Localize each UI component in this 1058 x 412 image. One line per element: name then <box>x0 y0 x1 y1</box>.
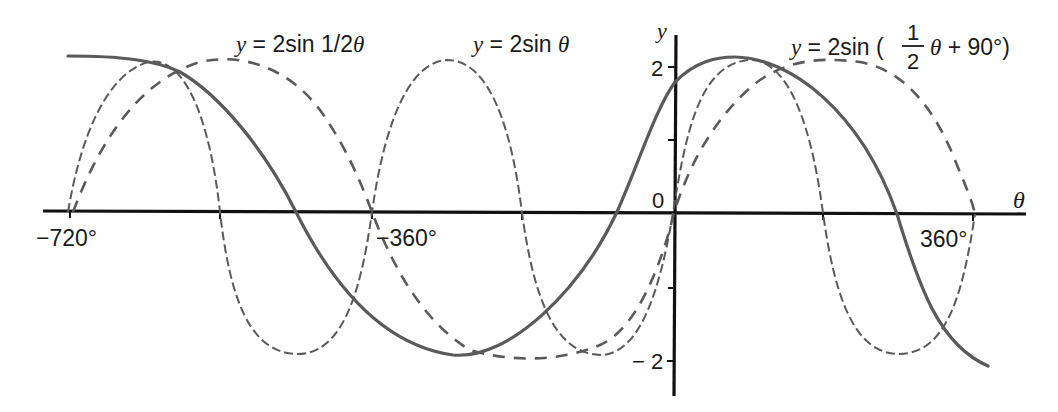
curve-2sin-theta <box>68 60 975 355</box>
label-2sin-half-theta: y = 2sin 1/2θ <box>234 31 364 57</box>
svg-text:θ + 90°): θ + 90°) <box>930 34 1010 60</box>
x-tick-label-360: 360° <box>920 226 968 252</box>
x-axis <box>43 211 1026 214</box>
label-2sin-half-theta-plus-90: y = 2sin ( 1 2 θ + 90°) <box>789 20 1010 74</box>
label-2sin-theta: y = 2sin θ <box>471 31 569 57</box>
labels: y = 2sin 1/2θ y = 2sin θ y = 2sin ( 1 2 … <box>36 18 1025 374</box>
x-tick-label-neg360: −360° <box>376 225 437 251</box>
y-tick-label-2: 2 <box>651 56 663 81</box>
axes <box>43 35 1026 396</box>
y-tick-label-0: 0 <box>652 188 664 213</box>
fraction-numerator: 1 <box>907 20 919 45</box>
y-axis-label: y <box>655 18 667 43</box>
svg-text:y = 2sin (: y = 2sin ( <box>789 34 884 60</box>
x-tick-label-neg720: −720° <box>36 225 97 251</box>
curve-2sin-half-theta <box>73 59 975 358</box>
y-tick-label-neg2: − 2 <box>632 349 663 374</box>
trig-graph: y = 2sin 1/2θ y = 2sin θ y = 2sin ( 1 2 … <box>0 0 1058 412</box>
x-axis-label: θ <box>1013 187 1025 213</box>
fraction-denominator: 2 <box>907 49 919 74</box>
